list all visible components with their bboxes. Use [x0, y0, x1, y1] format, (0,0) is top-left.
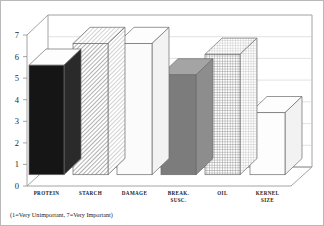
y-tick-0: 0: [15, 181, 19, 191]
bar-protein[interactable]: [29, 49, 81, 175]
cat-label-break-susc-line2: SUSC.: [170, 197, 186, 203]
chart-figure: 0 1 2 3 4 5 6 7 PROTEIN STARCH DAMAGE BR…: [0, 0, 324, 226]
y-tick-1: 1: [15, 159, 19, 169]
y-axis-ticks: [23, 35, 27, 186]
y-tick-7: 7: [15, 30, 19, 40]
chart-footnote: (1=Very Unimportant, 7=Very Important): [10, 211, 113, 219]
y-tick-5: 5: [15, 73, 19, 83]
cat-label-protein: PROTEIN: [34, 190, 60, 196]
bar-kernel-size[interactable]: [250, 97, 302, 175]
cat-label-oil: OIL: [217, 190, 228, 196]
y-tick-2: 2: [15, 138, 19, 148]
x-category-labels: PROTEIN STARCH DAMAGE BREAK. SUSC. OIL K…: [34, 190, 280, 203]
cat-label-break-susc-line1: BREAK.: [168, 190, 190, 196]
y-tick-4: 4: [15, 95, 20, 105]
bar-chart-3d: 0 1 2 3 4 5 6 7 PROTEIN STARCH DAMAGE BR…: [1, 1, 324, 226]
cat-label-kernel-size-line2: SIZE: [261, 197, 274, 203]
cat-label-damage: DAMAGE: [122, 190, 148, 196]
y-tick-labels: 0 1 2 3 4 5 6 7: [15, 30, 20, 191]
y-tick-3: 3: [15, 116, 19, 126]
cat-label-starch: STARCH: [79, 190, 102, 196]
y-tick-6: 6: [15, 52, 19, 62]
cat-label-kernel-size-line1: KERNEL: [256, 190, 280, 196]
